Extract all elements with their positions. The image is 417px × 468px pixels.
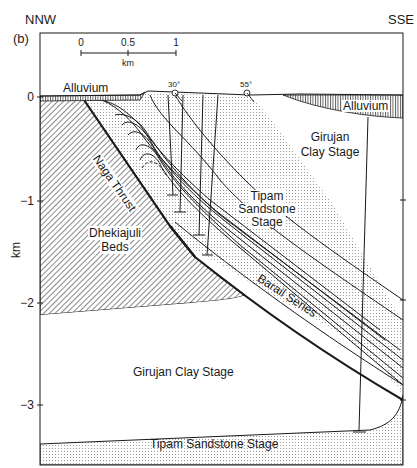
y-tick-3: −3 [6,399,34,411]
tipam-line3: Stage [250,216,283,229]
label-girujan-lower: Girujan Clay Stage [133,366,234,378]
panel-label: (b) [13,33,29,45]
label-tipam-upper: Tipam Sandstone Stage [232,190,302,229]
dhekiajuli-line2: Beds [100,240,129,254]
label-alluvium-left: Alluvium [63,82,108,94]
girujan-upper-line2: Clay Stage [290,145,370,160]
y-tick-1: −1 [6,195,34,207]
girujan-upper-line1: Girujan [290,130,370,145]
scale-tick-1: 1 [171,37,181,49]
label-tipam-lower: Tipam Sandstone Stage [150,438,278,450]
label-girujan-upper: Girujan Clay Stage [290,130,370,160]
cross-section-diagram [0,0,417,468]
scale-tick-05: 0.5 [118,37,138,49]
dip-marker-55: 55° [240,80,252,89]
dip-marker-30: 30° [168,80,180,89]
label-dhekiajuli: Dhekiajuli Beds [80,226,150,254]
y-axis-label: km [10,242,22,258]
scale-bar [81,50,176,56]
scale-tick-0: 0 [76,37,86,49]
y-tick-2: −2 [6,297,34,309]
direction-sse: SSE [388,14,414,26]
label-alluvium-right: Alluvium [342,100,389,112]
y-tick-0: 0 [6,91,34,103]
scale-unit: km [118,57,138,69]
dhekiajuli-line1: Dhekiajuli [88,226,142,240]
direction-nnw: NNW [25,14,56,26]
